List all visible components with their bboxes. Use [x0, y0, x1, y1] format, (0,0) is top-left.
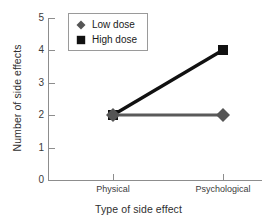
legend-label-high-dose: High dose [92, 35, 137, 45]
diamond-icon [76, 20, 86, 30]
legend-label-low-dose: Low dose [92, 20, 135, 30]
legend-item-high-dose: High dose [76, 33, 137, 47]
legend: Low dose High dose [68, 13, 148, 51]
legend-item-low-dose: Low dose [76, 18, 135, 32]
high-dose-point-psychological [218, 45, 228, 55]
low-dose-point-psychological [216, 108, 230, 122]
square-icon [76, 35, 86, 45]
line-chart: 5 4 3 2 1 0 Physical Psychological Type … [0, 0, 277, 222]
high-dose-line [113, 50, 223, 115]
